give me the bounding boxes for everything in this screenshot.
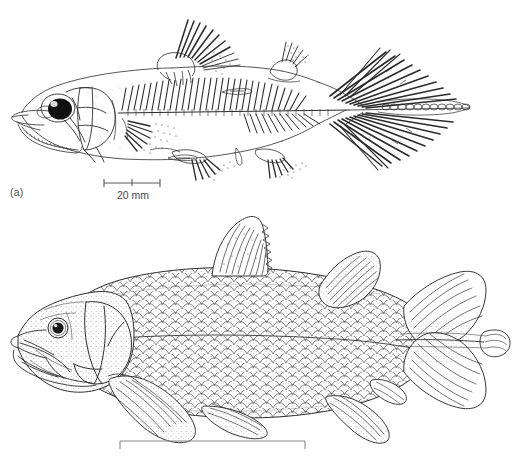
coelacanth-anal-fin <box>326 396 389 444</box>
fish-a-anal-fin <box>236 148 307 179</box>
panel-label-a: (a) <box>10 186 23 198</box>
figure-panel-b: 1 m (b) <box>0 210 517 471</box>
comparative-fish-anatomy-figure: 20 mm (a) <box>0 0 517 471</box>
scale-bar-20mm <box>96 176 172 190</box>
fish-a-dorsal-fin <box>157 20 240 86</box>
fish-a-adipose-fin <box>268 42 309 82</box>
scale-bar-20mm-label: 20 mm <box>88 189 178 201</box>
fish-a-vertebral-column <box>118 109 350 116</box>
fish-a-caudal-fin <box>330 48 470 170</box>
fish-a-ribs <box>122 78 306 110</box>
coelacanth-first-dorsal-fin <box>212 217 272 277</box>
fish-a-haemal-spines <box>244 114 320 133</box>
fish-a-pectoral-fin <box>122 118 177 154</box>
fish-a-caudal-scutes <box>378 99 470 115</box>
figure-panel-a: 20 mm (a) <box>0 0 517 210</box>
scale-bar-1m <box>112 436 316 452</box>
coelacanth-illustration <box>0 210 517 471</box>
fish-a-eye <box>37 94 75 122</box>
fish-a-lower-jaw <box>18 124 82 153</box>
ray-finned-fish-illustration <box>0 0 517 210</box>
coelacanth-caudal-fin <box>396 271 510 408</box>
